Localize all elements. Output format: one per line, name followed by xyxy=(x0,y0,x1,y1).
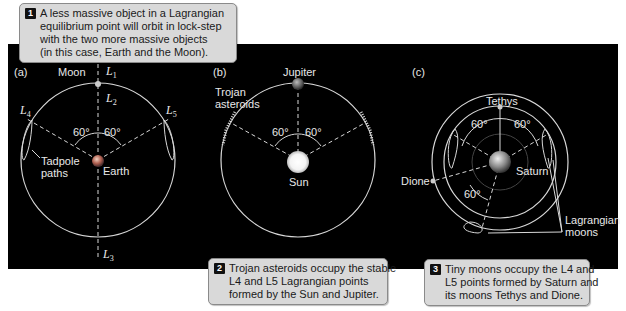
l3-label: L3 xyxy=(103,248,114,265)
moon-label: Moon xyxy=(58,66,86,78)
trojan-label: Trojan xyxy=(215,86,246,98)
callout-text: Trojan asteroids occupy the stable xyxy=(229,262,381,275)
callout-text: with the two more massive objects xyxy=(40,33,230,46)
jupiter-label: Jupiter xyxy=(283,66,316,78)
angle-label: 60° xyxy=(272,126,289,138)
sun-label: Sun xyxy=(289,176,309,188)
trojan-label: asteroids xyxy=(215,98,260,110)
tethys-label: Tethys xyxy=(486,95,518,107)
callout-text: (in this case, Earth and the Moon). xyxy=(40,46,230,59)
panel-a-tag: (a) xyxy=(14,66,27,78)
l4-label: L4 xyxy=(20,104,31,121)
panel-b-tag: (b) xyxy=(213,66,226,78)
callout-text: formed by the Sun and Jupiter. xyxy=(229,288,381,301)
lagrangian-label: Lagrangian xyxy=(565,214,620,226)
panel-c-tag: (c) xyxy=(412,66,425,78)
callout-text: its moons Tethys and Dione. xyxy=(445,289,583,302)
saturn-label: Saturn xyxy=(516,165,548,177)
moon-dot xyxy=(95,81,101,87)
l1-label: L1 xyxy=(106,65,117,82)
callout-text: A less massive object in a Lagrangian xyxy=(40,7,230,20)
jupiter-icon xyxy=(292,78,304,90)
callout-text: Tiny moons occupy the L4 and xyxy=(445,263,583,276)
callout-3: 3 Tiny moons occupy the L4 and L5 points… xyxy=(424,259,590,306)
callout-number: 3 xyxy=(430,264,441,275)
earth-label: Earth xyxy=(103,165,129,177)
callout-number: 1 xyxy=(25,8,36,19)
angle-label: 60° xyxy=(514,118,531,130)
callout-text: equilibrium point will orbit in lock-ste… xyxy=(40,20,230,33)
callout-text: L5 points formed by Saturn and xyxy=(445,276,583,289)
callout-2: 2 Trojan asteroids occupy the stable L4 … xyxy=(208,258,388,305)
tadpole-label: Tadpole xyxy=(41,155,80,167)
l5-label: L5 xyxy=(166,104,177,121)
lagrangian-label: moons xyxy=(565,226,598,238)
l2-label: L2 xyxy=(106,92,117,109)
dione-dot xyxy=(431,179,436,184)
tadpole-label: paths xyxy=(41,167,68,179)
angle-label: 60° xyxy=(104,126,121,138)
callout-number: 2 xyxy=(214,263,225,274)
sun-icon xyxy=(287,151,309,173)
angle-label: 60° xyxy=(73,126,90,138)
saturn-icon xyxy=(489,151,511,173)
angle-label: 60° xyxy=(305,126,322,138)
angle-label: 60° xyxy=(464,188,481,200)
callout-1: 1 A less massive object in a Lagrangian … xyxy=(19,3,237,63)
dione-label: Dione xyxy=(401,175,430,187)
angle-label: 60° xyxy=(471,118,488,130)
callout-text: L4 and L5 Lagrangian points xyxy=(229,275,381,288)
